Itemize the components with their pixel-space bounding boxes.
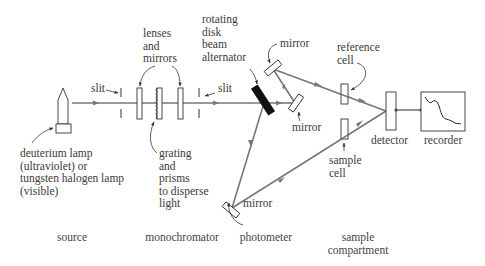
recorder-label: recorder — [424, 134, 462, 147]
slit-left-label: slit — [91, 82, 105, 95]
recorder-icon — [421, 92, 465, 131]
slit-right-label: slit — [218, 82, 232, 95]
mirror-right-label: mirror — [292, 121, 321, 134]
lamp-label: deuterium lamp (ultraviolet) or tungsten… — [20, 147, 124, 197]
mirror-bottom-label: mirror — [243, 197, 272, 210]
section-sample-compartment: sample compartment — [310, 231, 406, 256]
lens-1 — [137, 88, 142, 119]
grating-icon — [156, 88, 162, 119]
mirror-top — [264, 60, 282, 76]
lenses-and-mirrors-label: lenses and mirrors — [143, 27, 177, 65]
lamp-icon — [56, 88, 71, 133]
detector-icon — [386, 92, 396, 130]
section-source: source — [36, 231, 108, 244]
grating-label: grating and prisms to disperse light — [159, 147, 209, 210]
rotating-disk-chopper — [251, 84, 275, 115]
reference-cell-label: reference cell — [337, 41, 380, 66]
section-photometer: photometer — [230, 231, 302, 244]
beam-direction-arrows — [93, 82, 366, 183]
detector-label: detector — [371, 134, 408, 147]
sample-cell-label: sample cell — [329, 154, 362, 179]
lens-2 — [178, 88, 183, 119]
section-monochromator: monochromator — [137, 231, 227, 244]
mirror-top-label: mirror — [280, 37, 309, 50]
rotating-disk-label: rotating disk beam alternator — [202, 13, 246, 63]
